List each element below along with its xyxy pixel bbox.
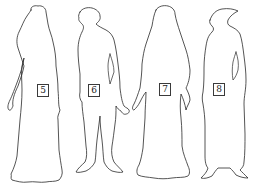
figure-5-number-label: 5 xyxy=(37,84,49,97)
figure-5-outline xyxy=(8,6,62,183)
figure-6-outline xyxy=(76,8,129,173)
figure-8-number-label: 8 xyxy=(213,83,225,96)
figure-7-number-label: 7 xyxy=(159,83,171,96)
figure-6-number-label: 6 xyxy=(88,84,100,97)
